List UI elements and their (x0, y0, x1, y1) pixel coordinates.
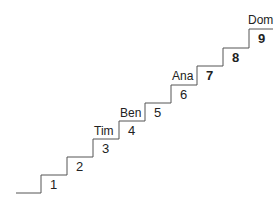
step-number: 5 (154, 106, 161, 119)
step-name: Ana (172, 70, 193, 82)
step-name: Tim (94, 125, 114, 137)
step-number: 3 (102, 142, 109, 155)
step-number: 6 (180, 88, 187, 101)
step-number: 9 (258, 32, 265, 45)
step-number: 7 (206, 69, 213, 82)
step-name: Ben (120, 107, 141, 119)
staircase-outline (0, 0, 280, 204)
step-number: 4 (128, 124, 135, 137)
step-number: 2 (76, 160, 83, 173)
step-number: 1 (50, 178, 57, 191)
step-number: 8 (232, 51, 239, 64)
step-name: Dom (248, 14, 273, 26)
